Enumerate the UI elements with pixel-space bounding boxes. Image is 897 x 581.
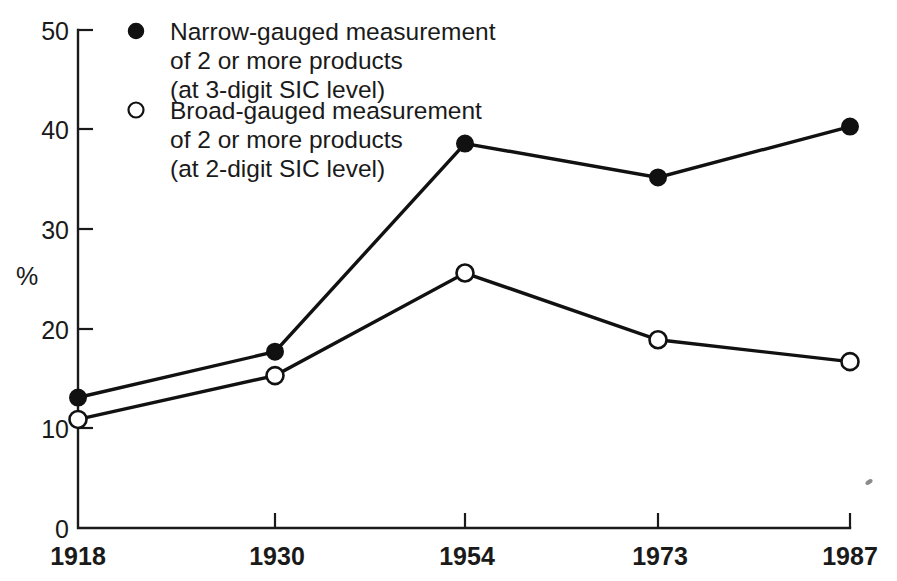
filled-circle-marker (650, 169, 666, 185)
chart-figure: 50 40 30 20 10 0 % 1918 1930 1954 1973 1… (0, 0, 897, 581)
y-tick-label-20: 20 (41, 316, 69, 344)
series-broad-gauged (70, 265, 859, 428)
y-tick-label-50: 50 (41, 17, 69, 45)
x-tick-labels: 1918 1930 1954 1973 1987 (50, 542, 878, 570)
x-tick-label-1930: 1930 (249, 542, 305, 570)
x-axis-ticks (275, 513, 850, 528)
y-tick-label-30: 30 (41, 216, 69, 244)
open-circle-marker (842, 353, 859, 370)
legend-entry-1-line-0: Broad-gauged measurement (170, 97, 482, 124)
line-chart-svg: 50 40 30 20 10 0 % 1918 1930 1954 1973 1… (0, 0, 897, 581)
legend-entry-broad-gauged: Broad-gauged measurement of 2 or more pr… (129, 97, 483, 182)
open-circle-marker (457, 265, 474, 282)
filled-circle-marker (70, 390, 86, 406)
legend-entry-1-line-1: of 2 or more products (170, 126, 403, 153)
series-line (78, 273, 850, 419)
scan-speck (864, 478, 873, 486)
open-circle-marker (267, 367, 284, 384)
y-tick-labels: 50 40 30 20 10 0 (41, 17, 69, 543)
open-circle-marker (70, 411, 87, 428)
filled-circle-marker (457, 136, 473, 152)
x-tick-label-1918: 1918 (50, 542, 106, 570)
y-tick-label-40: 40 (41, 116, 69, 144)
legend: Narrow-gauged measurement of 2 or more p… (129, 18, 496, 182)
legend-entry-narrow-gauged: Narrow-gauged measurement of 2 or more p… (129, 18, 496, 103)
legend-entry-0-line-1: of 2 or more products (170, 47, 403, 74)
x-tick-label-1954: 1954 (439, 542, 495, 570)
x-tick-label-1987: 1987 (822, 542, 878, 570)
y-axis-ticks (78, 30, 93, 428)
legend-entry-1-line-2: (at 2-digit SIC level) (170, 155, 385, 182)
filled-circle-icon (129, 24, 144, 39)
open-circle-marker (650, 331, 667, 348)
x-tick-label-1973: 1973 (632, 542, 688, 570)
legend-entry-0-line-0: Narrow-gauged measurement (170, 18, 496, 45)
y-tick-label-10: 10 (41, 415, 69, 443)
filled-circle-marker (842, 119, 858, 135)
y-tick-label-0: 0 (55, 515, 69, 543)
y-axis-title: % (16, 262, 38, 290)
open-circle-icon (129, 103, 144, 118)
filled-circle-marker (267, 344, 283, 360)
